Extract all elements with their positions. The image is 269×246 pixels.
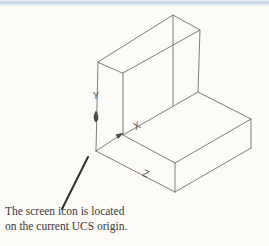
x-axis-arrowhead-icon xyxy=(116,133,124,139)
right-vertical-edge xyxy=(198,30,200,92)
base-top-face xyxy=(123,92,251,163)
callout-caption-line1: The screen icon is located xyxy=(5,204,127,219)
y-axis-label: Y xyxy=(92,90,99,101)
wireframe-block xyxy=(96,15,251,192)
callout-caption-line2: on the current UCS origin. xyxy=(5,219,127,234)
bottom-front-left-edge xyxy=(96,151,175,192)
x-axis-label: X xyxy=(131,119,142,132)
y-axis-arrowhead-icon xyxy=(94,111,99,123)
tall-box-top-face xyxy=(98,15,200,73)
callout-caption: The screen icon is located on the curren… xyxy=(5,204,127,233)
figure-canvas: Y X Z The screen icon is located on the … xyxy=(0,0,269,246)
ucs-icon: Y X Z xyxy=(92,90,151,180)
bottom-front-right-edge xyxy=(175,148,251,192)
front-left-vertical-edge xyxy=(96,62,98,151)
z-axis-label: Z xyxy=(141,167,152,180)
callout-leader-line xyxy=(62,157,88,209)
